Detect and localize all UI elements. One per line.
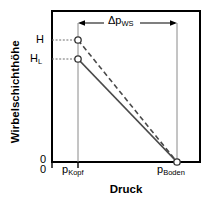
y-tick-label-HL-base: H bbox=[30, 52, 38, 64]
x-tick-label-p-boden: pBoden bbox=[157, 164, 185, 175]
y-tick-label-H: H bbox=[36, 34, 44, 45]
x-tick-label-p-kopf-subscript: Kopf bbox=[68, 168, 83, 177]
x-tick-label-origin: 0 bbox=[40, 164, 46, 175]
y-axis-title: Wirbelschichthöhe bbox=[10, 32, 22, 152]
delta-p-ws-base: Δp bbox=[108, 14, 121, 26]
delta-p-ws-annotation: ΔpWS bbox=[108, 15, 134, 26]
series-fixed-bed-solid bbox=[78, 59, 177, 162]
marker-point-HL bbox=[75, 56, 81, 62]
plot-frame bbox=[52, 11, 200, 162]
delta-p-arrow-head-left bbox=[78, 20, 85, 26]
delta-p-ws-subscript: WS bbox=[121, 19, 133, 28]
pressure-drop-fluidized-bed-chart: Wirbelschichthöhe Druck H HL 0 0 pKopf p… bbox=[0, 0, 213, 207]
delta-p-arrow-head-right bbox=[170, 20, 177, 26]
x-tick-label-p-boden-subscript: Boden bbox=[163, 168, 185, 177]
y-tick-label-HL-subscript: L bbox=[38, 57, 42, 66]
x-axis-title: Druck bbox=[52, 184, 200, 196]
series-expanded-bed-dashed bbox=[78, 40, 177, 162]
y-tick-label-HL: HL bbox=[30, 53, 42, 64]
marker-point-H bbox=[75, 37, 81, 43]
x-tick-label-p-kopf: pKopf bbox=[62, 164, 84, 175]
